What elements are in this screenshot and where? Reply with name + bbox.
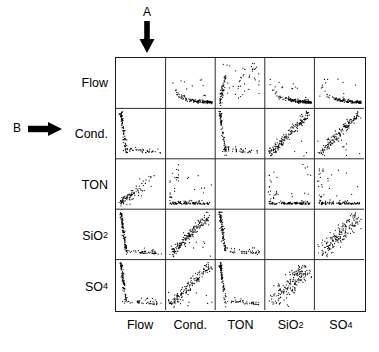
col-label-sio2-sub: 2: [299, 321, 304, 330]
matrix-grid: [115, 57, 366, 312]
col-label-so4: SO4: [316, 314, 366, 336]
column-label-group: Flow Cond. TON SiO2 SO4: [115, 314, 366, 338]
col-label-cond-text: Cond.: [174, 318, 207, 332]
annotation-a-label: A: [131, 6, 163, 19]
col-label-flow-text: Flow: [127, 318, 153, 332]
row-label-sio2-sub: 2: [103, 231, 108, 240]
col-label-so4-text: SO: [329, 318, 347, 332]
down-arrow-icon: [131, 21, 163, 54]
col-label-sio2: SiO2: [266, 314, 316, 336]
scatterplot-matrix-figure: A B Flow Cond. TON SiO2 SO4 Flow Cond.: [0, 0, 379, 352]
row-label-sio2-text: SiO: [82, 229, 103, 243]
row-label-so4-text: SO: [85, 280, 103, 294]
row-label-cond-text: Cond.: [75, 127, 108, 141]
col-label-so4-sub: 4: [347, 321, 352, 330]
row-label-ton: TON: [52, 159, 108, 210]
row-label-group: Flow Cond. TON SiO2 SO4: [52, 57, 112, 312]
col-label-sio2-text: SiO: [278, 318, 299, 332]
row-label-ton-text: TON: [82, 178, 108, 192]
col-label-cond: Cond.: [165, 314, 215, 336]
row-label-so4: SO4: [52, 261, 108, 312]
col-label-ton-text: TON: [227, 318, 253, 332]
row-label-cond: Cond.: [52, 108, 108, 159]
annotation-a: A: [131, 6, 163, 54]
col-label-flow: Flow: [115, 314, 165, 336]
row-label-flow-text: Flow: [82, 76, 108, 90]
col-label-ton: TON: [215, 314, 265, 336]
annotation-b-label: B: [10, 120, 24, 136]
row-label-so4-sub: 4: [103, 282, 108, 291]
row-label-flow: Flow: [52, 57, 108, 108]
row-label-sio2: SiO2: [52, 210, 108, 261]
